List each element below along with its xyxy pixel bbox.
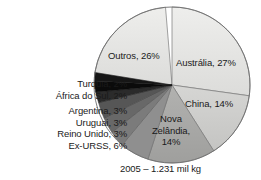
pie-slice-outros (95, 7, 172, 85)
slice-label-outros: Outros, 26% (108, 50, 160, 61)
callout-label-turquia: Turquia, 2% (0, 78, 127, 90)
pie-chart-figure: Outros, 26% Austrália, 27% China, 14% No… (0, 0, 261, 180)
slice-label-australia: Austrália, 27% (176, 57, 236, 68)
slice-label-nova-zelandia-line3: 14% (162, 136, 181, 147)
callout-label-ex-urss: Ex-URSS, 6% (0, 140, 127, 152)
callout-label-africa-do-sul: África do Sul, 2% (0, 90, 127, 102)
chart-caption: 2005 – 1.231 mil kg (120, 163, 201, 174)
callout-label-list: Turquia, 2% África do Sul, 2% Argentina,… (0, 78, 127, 152)
slice-label-nova-zelandia-line1: Nova (160, 113, 182, 124)
slice-label-china: China, 14% (185, 98, 233, 109)
slice-label-nova-zelandia: Nova Zelândia, 14% (143, 113, 199, 148)
callout-label-argentina: Argentina, 3% (0, 105, 127, 117)
callout-label-reino-unido: Reino Unido, 3% (0, 128, 127, 140)
pie-slice-australia (172, 7, 250, 96)
slice-label-nova-zelandia-line2: Zelândia, (152, 125, 190, 136)
callout-label-uruguai: Uruguai, 3% (0, 117, 127, 129)
